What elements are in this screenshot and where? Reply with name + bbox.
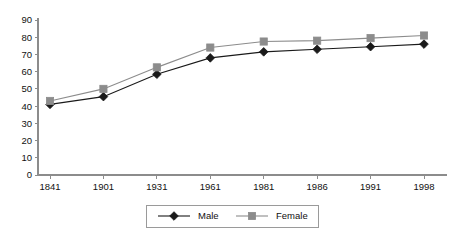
y-tick-label: 30 bbox=[21, 118, 32, 129]
data-point-marker: Female 1841: 43 bbox=[46, 97, 53, 104]
data-point-marker: Female 1931: 62.5 bbox=[153, 64, 160, 71]
y-tick-label: 60 bbox=[21, 66, 32, 77]
data-point-marker: Female 1998: 81 bbox=[420, 32, 427, 39]
x-tick-label: 1981 bbox=[253, 181, 274, 192]
y-tick-label: 50 bbox=[21, 83, 32, 94]
data-point-marker: Male 1981: 71.5 bbox=[259, 48, 268, 57]
x-tick-label: 1841 bbox=[39, 181, 60, 192]
data-point-marker: Female 1961: 74 bbox=[207, 44, 214, 51]
legend-label: Male bbox=[198, 210, 219, 221]
y-tick-label: 70 bbox=[21, 49, 32, 60]
data-point-marker: Male 1901: 45.5 bbox=[99, 92, 108, 101]
data-series-group: Male 1841: 41Male 1901: 45.5Male 1931: 5… bbox=[46, 32, 429, 109]
y-tick-label: 20 bbox=[21, 135, 32, 146]
series-male: Male 1841: 41Male 1901: 45.5Male 1931: 5… bbox=[46, 40, 429, 109]
x-tick-label: 1998 bbox=[413, 181, 434, 192]
y-axis: 0102030405060708090 bbox=[21, 14, 38, 180]
y-tick-label: 10 bbox=[21, 152, 32, 163]
data-point-marker: Male 1961: 68 bbox=[206, 54, 215, 63]
data-point-marker: Female 1991: 79.5 bbox=[367, 34, 374, 41]
y-tick-label: 40 bbox=[21, 101, 32, 112]
data-point-marker: Female 1901: 50 bbox=[100, 85, 107, 92]
y-tick-label: 80 bbox=[21, 32, 32, 43]
data-point-marker: Female 1981: 77.5 bbox=[260, 38, 267, 45]
y-tick-label: 90 bbox=[21, 14, 32, 25]
x-tick-label: 1986 bbox=[307, 181, 328, 192]
legend-label: Female bbox=[276, 210, 308, 221]
data-point-marker: Female 1986: 78 bbox=[314, 37, 321, 44]
x-tick-label: 1901 bbox=[93, 181, 114, 192]
y-tick-label: 0 bbox=[27, 169, 32, 180]
x-tick-label: 1961 bbox=[200, 181, 221, 192]
chart-legend: MaleFemale bbox=[146, 205, 318, 227]
data-point-marker: Male 1998: 76 bbox=[420, 40, 429, 49]
x-tick-label: 1991 bbox=[360, 181, 381, 192]
data-point-marker: Male 1986: 73 bbox=[313, 45, 322, 54]
data-point-marker: Male 1991: 74.5 bbox=[366, 42, 375, 51]
chart-canvas: 0102030405060708090 18411901193119611981… bbox=[0, 0, 455, 240]
line-chart: 0102030405060708090 18411901193119611981… bbox=[0, 0, 455, 240]
x-tick-label: 1931 bbox=[146, 181, 167, 192]
x-axis: 18411901193119611981198619911998 bbox=[38, 175, 447, 192]
legend-square-marker-icon bbox=[248, 212, 255, 219]
